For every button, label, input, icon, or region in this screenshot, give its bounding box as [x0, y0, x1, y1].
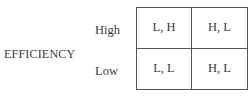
matrix-grid: L, H H, L L, L H, L [136, 7, 248, 90]
row-label-low: Low [95, 64, 118, 79]
cell-high-left: L, H [137, 8, 192, 49]
cell-low-left: L, L [137, 49, 192, 90]
efficiency-axis-label: EFFICIENCY [4, 47, 75, 62]
cell-low-right: H, L [192, 49, 247, 90]
cell-high-right: H, L [192, 8, 247, 49]
row-label-high: High [95, 23, 120, 38]
